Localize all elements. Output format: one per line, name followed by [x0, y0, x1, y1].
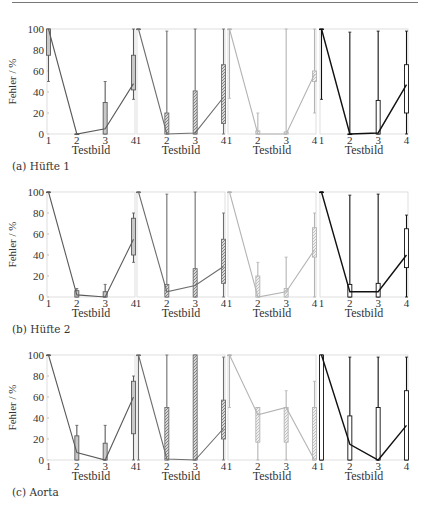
x-tick-label: 1 [136, 297, 142, 309]
x-tick-label: 1 [227, 460, 233, 472]
y-tick-label: 40 [33, 249, 45, 261]
y-tick-label: 60 [33, 65, 45, 77]
median-line [49, 192, 134, 297]
median-line [322, 29, 407, 134]
x-axis-label: Testbild [162, 306, 201, 320]
x-tick-label: 1 [46, 134, 52, 146]
y-tick-label: 60 [33, 228, 45, 240]
row-3: 020406080100Fehler / %1234Testbild1234Te… [6, 349, 410, 498]
panel-frame [47, 29, 135, 134]
y-tick-label: 0 [39, 291, 45, 303]
panel-4: 1234Testbild [319, 355, 410, 483]
panel-2: 1234Testbild [136, 29, 227, 157]
box-3 [376, 357, 380, 460]
box [222, 65, 226, 124]
box [376, 408, 380, 461]
y-tick-label: 100 [28, 349, 45, 361]
box [222, 239, 226, 283]
panel-4: 1234Testbild [319, 29, 410, 157]
panel-frame [228, 192, 316, 297]
y-tick-label: 0 [39, 454, 45, 466]
x-tick-label: 1 [227, 297, 233, 309]
x-axis-label: Testbild [253, 469, 292, 483]
panel-1: 1234Testbild [46, 355, 137, 483]
y-tick-label: 40 [33, 86, 45, 98]
x-tick-label: 4 [404, 460, 410, 472]
box-3 [284, 391, 288, 460]
median-line [139, 192, 224, 292]
box-3 [103, 425, 107, 460]
x-axis-label: Testbild [162, 143, 201, 157]
box [284, 408, 288, 443]
panel-1: 1234Testbild [46, 192, 137, 320]
x-axis-label: Testbild [72, 143, 111, 157]
panel-frame [320, 355, 408, 460]
box-2 [348, 195, 352, 297]
box [405, 229, 409, 268]
box [132, 218, 136, 255]
y-tick-label: 80 [33, 370, 45, 382]
box-2 [165, 31, 169, 134]
box [376, 100, 380, 134]
y-tick-label: 100 [28, 186, 45, 198]
box [193, 269, 197, 297]
y-tick-label: 80 [33, 44, 45, 56]
box [222, 400, 226, 439]
x-tick-label: 1 [46, 460, 52, 472]
box-2 [165, 194, 169, 297]
box-3 [193, 355, 197, 460]
y-tick-label: 80 [33, 207, 45, 219]
y-tick-label: 20 [33, 433, 45, 445]
x-axis-label: Testbild [162, 469, 201, 483]
x-axis-label: Testbild [72, 306, 111, 320]
panel-frame [320, 29, 408, 134]
y-axis-label: Fehler / % [6, 222, 18, 268]
box-2 [165, 355, 169, 460]
box-2 [75, 425, 79, 460]
panel-frame [137, 355, 225, 460]
subfigure-caption: (a) Hüfte 1 [12, 160, 70, 172]
x-axis-label: Testbild [345, 469, 384, 483]
box-2 [348, 32, 352, 134]
median-line [322, 355, 407, 460]
panel-4: 1234Testbild [319, 192, 410, 320]
panel-3: 1234Testbild [227, 192, 318, 320]
box-3 [376, 194, 380, 297]
median-line [322, 192, 407, 292]
y-tick-label: 100 [28, 23, 45, 35]
x-tick-label: 1 [136, 460, 142, 472]
panel-frame [137, 192, 225, 297]
y-axis-label: Fehler / % [6, 385, 18, 431]
box-4 [132, 213, 136, 262]
box [132, 55, 136, 90]
panel-2: 1234Testbild [136, 355, 227, 483]
y-axis-label: Fehler / % [6, 59, 18, 105]
box [193, 355, 197, 460]
panel-frame [228, 29, 316, 134]
median-line [139, 355, 224, 460]
subfigure-caption: (c) Aorta [12, 486, 59, 498]
median-line [230, 29, 315, 134]
median-line [230, 192, 315, 297]
x-tick-label: 1 [319, 460, 325, 472]
x-tick-label: 1 [227, 134, 233, 146]
panel-3: 1234Testbild [227, 29, 318, 157]
median-line [49, 355, 134, 460]
box-3 [193, 192, 197, 297]
x-axis-label: Testbild [253, 143, 292, 157]
x-axis-label: Testbild [345, 306, 384, 320]
x-tick-label: 4 [312, 297, 318, 309]
panel-frame [47, 192, 135, 297]
x-tick-label: 4 [404, 297, 410, 309]
median-line [49, 29, 134, 134]
y-tick-label: 0 [39, 128, 45, 140]
panel-1: 1234Testbild [46, 29, 137, 157]
x-tick-label: 1 [319, 297, 325, 309]
box-3 [284, 29, 288, 134]
panel-frame [228, 355, 316, 460]
box-3 [376, 31, 380, 134]
x-tick-label: 1 [136, 134, 142, 146]
panel-frame [47, 355, 135, 460]
box [313, 408, 317, 461]
row-1: 020406080100Fehler / %1234Testbild1234Te… [6, 23, 410, 172]
